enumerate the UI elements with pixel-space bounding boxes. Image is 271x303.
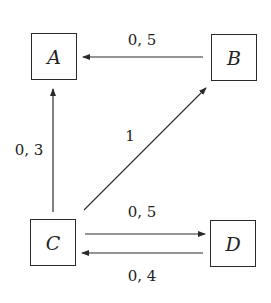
node-d: D (210, 220, 256, 267)
edge-label-c-to-d: 0, 5 (128, 203, 157, 221)
edge-label-c-to-b: 1 (125, 127, 135, 145)
node-b-label: B (227, 47, 241, 69)
node-a: A (31, 33, 77, 80)
node-c-label: C (46, 232, 61, 254)
node-d-label: D (225, 233, 240, 255)
edge-label-c-to-a: 0, 3 (15, 141, 44, 159)
node-c: C (30, 219, 76, 266)
node-a-label: A (47, 46, 61, 68)
graph-diagram: A B C D 0, 5 0, 3 1 0, 5 0, 4 (0, 0, 271, 303)
node-b: B (211, 34, 257, 81)
edge-label-d-to-c: 0, 4 (128, 267, 157, 285)
edge-c-to-b (84, 88, 206, 210)
edge-label-b-to-a: 0, 5 (128, 31, 157, 49)
